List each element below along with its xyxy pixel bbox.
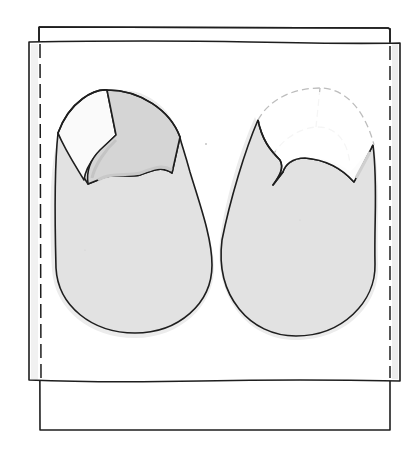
illustration-canvas: Two shoe upper pattern pieces on layered… bbox=[0, 0, 416, 460]
pattern-drawing bbox=[0, 0, 416, 460]
